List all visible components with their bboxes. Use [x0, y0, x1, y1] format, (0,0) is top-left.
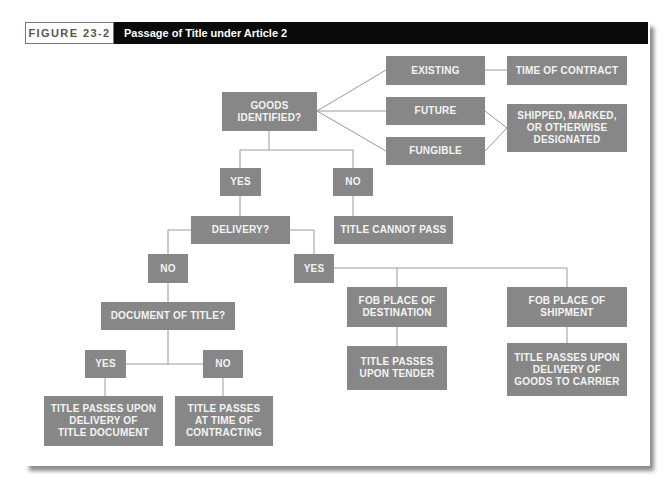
node-identified-no: NO: [333, 168, 373, 196]
node-shipped-marked-designated: SHIPPED, MARKED, OR OTHERWISE DESIGNATED: [507, 104, 627, 152]
node-passes-upon-tender: TITLE PASSES UPON TENDER: [347, 346, 447, 390]
node-delivery-yes: YES: [294, 254, 334, 283]
node-delivery-no: NO: [148, 254, 188, 283]
node-existing: EXISTING: [386, 56, 485, 85]
node-document-yes: YES: [85, 350, 126, 378]
node-fungible: FUNGIBLE: [386, 137, 485, 165]
node-title-cannot-pass: TITLE CANNOT PASS: [334, 216, 453, 244]
node-passes-upon-delivery-to-carrier: TITLE PASSES UPON DELIVERY OF GOODS TO C…: [507, 343, 627, 396]
node-document-of-title: DOCUMENT OF TITLE?: [101, 302, 235, 330]
node-passes-at-time-of-contracting: TITLE PASSES AT TIME OF CONTRACTING: [175, 396, 273, 446]
node-identified-yes: YES: [220, 168, 261, 196]
node-passes-upon-delivery-of-document: TITLE PASSES UPON DELIVERY OF TITLE DOCU…: [44, 396, 163, 446]
node-future: FUTURE: [386, 97, 485, 125]
node-delivery: DELIVERY?: [191, 216, 290, 244]
node-time-of-contract: TIME OF CONTRACT: [507, 56, 627, 85]
node-fob-shipment: FOB PLACE OF SHIPMENT: [507, 287, 627, 327]
node-document-no: NO: [203, 350, 243, 378]
node-fob-destination: FOB PLACE OF DESTINATION: [347, 287, 447, 327]
node-goods-identified: GOODS IDENTIFIED?: [222, 92, 317, 131]
